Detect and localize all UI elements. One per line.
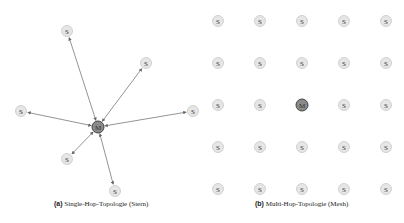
topology-diagram: SSSSSSM SSSSSSSSSSSSMSSSSSSSSSSSS <box>0 0 404 223</box>
mesh-topology: SSSSSSSSSSSSMSSSSSSSSSSSS <box>213 16 392 195</box>
master-node: M <box>92 121 104 133</box>
link-edge <box>102 69 142 122</box>
svg-text:S: S <box>216 18 220 26</box>
link-edge <box>100 134 113 184</box>
link-edge <box>69 38 96 121</box>
slave-node: S <box>16 106 27 117</box>
svg-text:S: S <box>216 102 220 110</box>
slave-node: S <box>339 142 350 153</box>
svg-text:S: S <box>113 188 117 196</box>
slave-node: S <box>213 16 224 27</box>
svg-text:S: S <box>216 60 220 68</box>
slave-node: S <box>381 100 392 111</box>
caption-b-label: (b) <box>255 200 264 207</box>
svg-text:S: S <box>258 144 262 152</box>
caption-b-text: Multi-Hop-Topologie (Mesh) <box>266 200 349 208</box>
svg-text:S: S <box>342 60 346 68</box>
slave-node: S <box>141 58 152 69</box>
link-edge <box>105 112 186 126</box>
slave-node: S <box>188 106 199 117</box>
svg-text:M: M <box>95 124 102 132</box>
slave-node: S <box>297 16 308 27</box>
svg-text:S: S <box>258 186 262 194</box>
svg-text:S: S <box>65 28 69 36</box>
slave-node: S <box>213 142 224 153</box>
svg-text:S: S <box>384 102 388 110</box>
slave-node: S <box>381 16 392 27</box>
caption-a-label: (a) <box>54 200 63 207</box>
svg-text:S: S <box>342 186 346 194</box>
slave-node: S <box>255 142 266 153</box>
svg-text:S: S <box>384 186 388 194</box>
slave-node: S <box>339 58 350 69</box>
caption-a-text: Single-Hop-Topologie (Stern) <box>64 200 148 208</box>
svg-text:S: S <box>19 108 23 116</box>
caption-b: (b) Multi-Hop-Topologie (Mesh) <box>255 200 348 208</box>
svg-text:S: S <box>300 60 304 68</box>
svg-text:S: S <box>191 108 195 116</box>
svg-text:S: S <box>216 144 220 152</box>
slave-node: S <box>62 26 73 37</box>
svg-text:S: S <box>384 18 388 26</box>
svg-text:S: S <box>342 144 346 152</box>
svg-text:S: S <box>258 60 262 68</box>
slave-node: S <box>255 16 266 27</box>
slave-node: S <box>381 184 392 195</box>
slave-node: S <box>255 58 266 69</box>
slave-node: S <box>297 142 308 153</box>
svg-text:S: S <box>144 60 148 68</box>
svg-text:S: S <box>300 186 304 194</box>
slave-node: S <box>213 58 224 69</box>
svg-text:S: S <box>258 18 262 26</box>
svg-text:S: S <box>216 186 220 194</box>
svg-text:S: S <box>384 60 388 68</box>
slave-node: S <box>62 154 73 165</box>
link-edge <box>72 132 93 154</box>
slave-node: S <box>381 58 392 69</box>
svg-text:S: S <box>342 18 346 26</box>
slave-node: S <box>297 184 308 195</box>
svg-text:S: S <box>258 102 262 110</box>
slave-node: S <box>213 100 224 111</box>
slave-node: S <box>255 100 266 111</box>
slave-node: S <box>381 142 392 153</box>
slave-node: S <box>339 16 350 27</box>
slave-node: S <box>339 100 350 111</box>
link-edge <box>28 112 91 125</box>
slave-node: S <box>339 184 350 195</box>
caption-a: (a) Single-Hop-Topologie (Stern) <box>54 200 148 208</box>
slave-node: S <box>110 186 121 197</box>
slave-node: S <box>213 184 224 195</box>
master-node: M <box>296 99 308 111</box>
slave-node: S <box>255 184 266 195</box>
slave-node: S <box>297 58 308 69</box>
svg-text:M: M <box>299 102 306 110</box>
svg-text:S: S <box>384 144 388 152</box>
svg-text:S: S <box>300 18 304 26</box>
svg-text:S: S <box>342 102 346 110</box>
star-topology: SSSSSSM <box>16 26 199 197</box>
svg-text:S: S <box>300 144 304 152</box>
svg-text:S: S <box>65 156 69 164</box>
